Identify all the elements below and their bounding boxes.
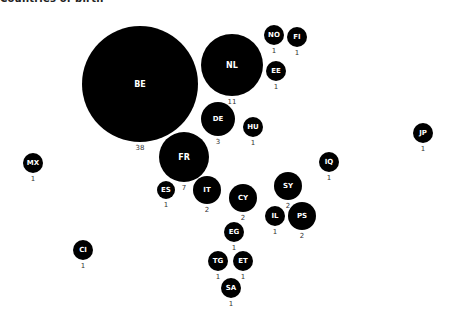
country-code-label: HU: [247, 123, 259, 131]
country-code-label: IL: [271, 212, 279, 220]
bubble-et[interactable]: ET1: [233, 251, 253, 281]
bubble-ci[interactable]: CI1: [73, 240, 93, 270]
country-code-label: DE: [213, 115, 224, 123]
bubble-de[interactable]: DE3: [201, 102, 235, 146]
country-code-label: PS: [297, 212, 307, 220]
bubble-no[interactable]: NO1: [264, 25, 284, 55]
count-label: 1: [232, 244, 236, 252]
country-code-label: ET: [238, 257, 248, 265]
count-label: 7: [182, 184, 186, 192]
country-code-label: IQ: [325, 158, 334, 166]
country-code-label: SA: [226, 284, 237, 292]
country-code-label: EG: [229, 228, 240, 236]
count-label: 1: [327, 174, 331, 182]
count-label: 11: [228, 98, 237, 106]
bubble-es[interactable]: ES1: [157, 181, 175, 209]
country-code-label: IT: [203, 186, 211, 194]
count-label: 1: [421, 145, 425, 153]
bubble-it[interactable]: IT2: [193, 176, 221, 214]
count-label: 3: [216, 138, 220, 146]
count-label: 1: [273, 228, 277, 236]
country-code-label: TG: [213, 257, 224, 265]
country-code-label: BE: [134, 80, 146, 89]
bubble-fi[interactable]: FI1: [287, 27, 307, 57]
bubble-eg[interactable]: EG1: [224, 222, 244, 252]
count-label: 1: [81, 262, 85, 270]
country-code-label: ES: [161, 186, 171, 194]
country-code-label: NL: [226, 61, 238, 70]
count-label: 1: [229, 300, 233, 308]
country-code-label: CI: [79, 246, 87, 254]
count-label: 2: [300, 232, 304, 240]
bubble-sa[interactable]: SA1: [221, 278, 241, 308]
country-code-label: NO: [268, 31, 280, 39]
bubble-cy[interactable]: CY2: [229, 184, 257, 222]
count-label: 1: [164, 201, 168, 209]
count-label: 1: [295, 49, 299, 57]
bubble-nl[interactable]: NL11: [201, 34, 263, 106]
count-label: 1: [272, 47, 276, 55]
country-code-label: MX: [27, 159, 40, 167]
count-label: 1: [274, 83, 278, 91]
country-code-label: SY: [283, 182, 294, 190]
bubble-ps[interactable]: PS2: [288, 202, 316, 240]
count-label: 1: [251, 139, 255, 147]
bubble-chart: BE38NL11NO1FI1EE1DE3HU1FR7ES1IT2CY2SY2IQ…: [0, 0, 456, 318]
count-label: 2: [205, 206, 209, 214]
country-code-label: FR: [178, 153, 190, 162]
country-code-label: FI: [293, 33, 300, 41]
country-code-label: JP: [418, 129, 427, 137]
count-label: 1: [216, 273, 220, 281]
bubble-il[interactable]: IL1: [265, 206, 285, 236]
country-code-label: CY: [238, 194, 249, 202]
bubble-ee[interactable]: EE1: [266, 61, 286, 91]
country-code-label: EE: [271, 67, 281, 75]
bubble-tg[interactable]: TG1: [208, 251, 228, 281]
count-label: 2: [241, 214, 245, 222]
count-label: 2: [286, 202, 290, 210]
count-label: 38: [136, 144, 145, 152]
bubble-mx[interactable]: MX1: [23, 153, 43, 183]
bubble-jp[interactable]: JP1: [413, 123, 433, 153]
count-label: 1: [241, 273, 245, 281]
count-label: 1: [31, 175, 35, 183]
bubble-hu[interactable]: HU1: [243, 117, 263, 147]
bubble-iq[interactable]: IQ1: [319, 152, 339, 182]
